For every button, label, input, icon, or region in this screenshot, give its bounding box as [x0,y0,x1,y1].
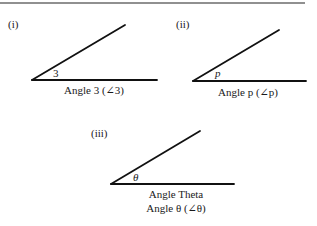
panel-ii: (ii) p Angle p (∠p) [176,18,306,99]
angle-caption-line-2: Angle θ (∠θ) [146,202,206,215]
panel-iii: (iii) θ Angle Theta Angle θ (∠θ) [91,127,234,215]
angle-diagram: (i) 3 Angle 3 (∠3) (ii) p Angle p (∠p) (… [0,0,317,226]
angle-ray-upper [193,30,279,81]
angle-ray-upper [111,131,200,184]
panel-label: (i) [8,18,19,31]
angle-caption: Angle p (∠p) [218,86,278,99]
angle-caption-line-1: Angle Theta [149,188,204,200]
angle-symbol: 3 [53,67,59,79]
angle-ray-upper [32,25,125,80]
panel-i: (i) 3 Angle 3 (∠3) [8,18,157,97]
angle-symbol: p [214,67,221,79]
panel-label: (iii) [91,127,108,140]
angle-symbol: θ [133,171,139,183]
panel-label: (ii) [176,18,190,31]
angle-caption: Angle 3 (∠3) [64,84,124,97]
